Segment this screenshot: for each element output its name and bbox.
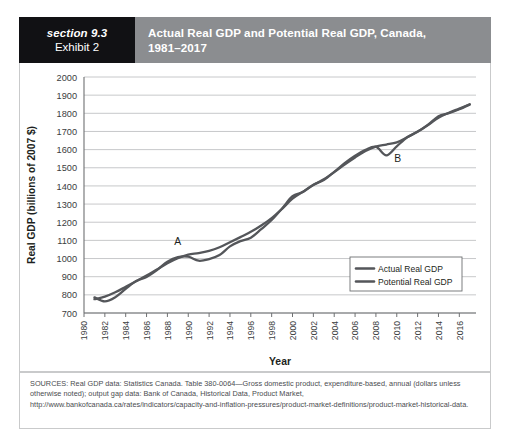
y-tick-label: 1100 [57,236,77,246]
x-tick-label: 2016 [455,321,465,340]
x-tick-label: 1986 [142,321,152,340]
y-tick-label: 1000 [57,254,77,264]
x-tick-label: 1996 [246,321,256,340]
x-tick-label: 2012 [413,321,423,340]
x-tick-label: 1988 [163,321,173,340]
y-tick-label: 1600 [57,145,77,155]
exhibit-card: section 9.3 Exhibit 2 Actual Real GDP an… [19,17,491,429]
exhibit-header-right: Actual Real GDP and Potential Real GDP, … [135,17,491,63]
x-tick-label: 1994 [225,321,235,340]
x-tick-label: 1990 [184,321,194,340]
y-tick-label: 700 [62,309,77,319]
legend-label-0: Actual Real GDP [378,264,443,274]
y-tick-label: 1800 [57,109,77,119]
y-tick-label: 1700 [57,127,77,137]
x-tick-label: 2010 [392,321,402,340]
sources-divider [20,372,490,373]
chart-legend: Actual Real GDPPotential Real GDP [350,257,462,291]
x-tick-label: 1998 [267,321,277,340]
x-tick-label: 2008 [371,321,381,340]
x-tick-label: 2014 [434,321,444,340]
y-tick-label: 1200 [57,218,77,228]
legend-label-1: Potential Real GDP [378,277,453,287]
x-tick-label: 1984 [121,321,131,340]
y-axis-title: Real GDP (billions of 2007 $) [26,126,37,264]
gdp-line-chart: 7008009001000110012001300140015001600170… [20,63,490,371]
y-tick-label: 1900 [57,91,77,101]
y-tick-label: 900 [62,272,77,282]
annotation-label-b: B [394,153,401,164]
exhibit-title-line-2: 1981–2017 [148,40,483,55]
x-tick-label: 2002 [309,321,319,340]
y-tick-label: 2000 [57,73,77,83]
x-tick-label: 2004 [330,321,340,340]
exhibit-header-left: section 9.3 Exhibit 2 [19,17,135,63]
y-tick-label: 1500 [57,163,77,173]
annotation-label-a: A [174,236,181,247]
sources-block: SOURCES: Real GDP data: Statistics Canad… [19,371,491,429]
chart-area: 7008009001000110012001300140015001600170… [19,63,491,371]
x-tick-label: 1982 [100,321,110,340]
y-tick-label: 800 [62,290,77,300]
x-tick-label: 2000 [288,321,298,340]
x-tick-label: 1980 [79,321,89,340]
exhibit-header: section 9.3 Exhibit 2 Actual Real GDP an… [19,17,491,63]
exhibit-label: Exhibit 2 [55,40,99,55]
x-tick-label: 1992 [205,321,215,340]
x-axis-title: Year [269,356,291,367]
x-tick-label: 2006 [350,321,360,340]
y-tick-label: 1400 [57,182,77,192]
sources-text: SOURCES: Real GDP data: Statistics Canad… [30,379,480,410]
exhibit-title-line-1: Actual Real GDP and Potential Real GDP, … [148,25,483,40]
section-label: section 9.3 [47,26,108,40]
y-tick-label: 1300 [57,200,77,210]
